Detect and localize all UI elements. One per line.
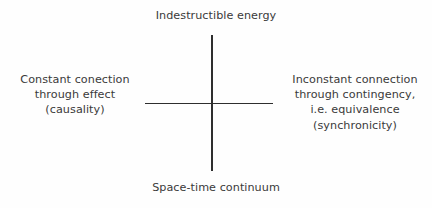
axis-label-right: Inconstant connection through contingenc… [282, 72, 428, 133]
axis-label-left: Constant conection through effect (causa… [8, 72, 142, 118]
horizontal-axis-line [145, 103, 273, 105]
axis-label-bottom: Space-time continuum [0, 180, 432, 195]
axis-label-top: Indestructible energy [0, 8, 432, 23]
synchronicity-diagram: Indestructible energy Constant conection… [0, 0, 432, 208]
